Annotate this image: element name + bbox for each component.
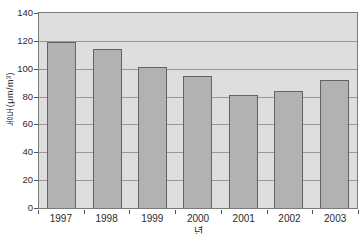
bar-column-2001 <box>221 95 266 208</box>
y-tick-label-100: 100 <box>0 64 33 74</box>
y-tick-label-80: 80 <box>0 92 33 102</box>
y-tick-mark-0 <box>34 208 38 209</box>
x-tick-mark-0 <box>38 210 39 214</box>
y-tick-label-0: 0 <box>0 203 33 213</box>
y-tick-mark-60 <box>34 124 38 125</box>
bar-2000 <box>183 76 212 208</box>
y-tick-mark-20 <box>34 180 38 181</box>
bar-column-1999 <box>130 67 175 208</box>
plot-area <box>38 12 358 209</box>
y-tick-mark-40 <box>34 152 38 153</box>
x-axis-title: 년 <box>38 223 358 234</box>
x-tick-mark-6 <box>312 210 313 214</box>
y-tick-label-20: 20 <box>0 175 33 185</box>
bar-2002 <box>274 91 303 208</box>
bars <box>39 13 357 208</box>
bar-chart: 농도(μm/m³) 1997199819992000200120022003 년… <box>0 0 361 234</box>
bar-1998 <box>93 49 122 208</box>
y-tick-mark-100 <box>34 69 38 70</box>
x-tick-mark-2 <box>129 210 130 214</box>
bar-column-1998 <box>84 49 129 208</box>
x-tick-mark-3 <box>175 210 176 214</box>
y-tick-mark-140 <box>34 13 38 14</box>
x-tick-mark-1 <box>84 210 85 214</box>
x-tick-mark-7 <box>358 210 359 214</box>
y-tick-mark-80 <box>34 97 38 98</box>
bar-1999 <box>138 67 167 208</box>
x-tick-mark-4 <box>221 210 222 214</box>
bar-column-2002 <box>266 91 311 208</box>
bar-1997 <box>47 42 76 208</box>
bar-2003 <box>320 80 349 208</box>
bar-column-2000 <box>175 76 220 208</box>
y-tick-label-60: 60 <box>0 119 33 129</box>
x-tick-mark-5 <box>267 210 268 214</box>
bar-column-2003 <box>312 80 357 208</box>
bar-2001 <box>229 95 258 208</box>
y-tick-label-40: 40 <box>0 147 33 157</box>
y-tick-label-140: 140 <box>0 8 33 18</box>
y-tick-label-120: 120 <box>0 36 33 46</box>
y-tick-mark-120 <box>34 41 38 42</box>
bar-column-1997 <box>39 42 84 208</box>
